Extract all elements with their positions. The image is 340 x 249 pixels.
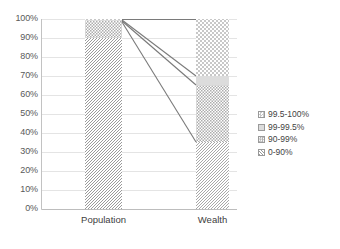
legend-swatch-cross-hatch [258, 136, 265, 143]
bar-segment-population-99.5-100 [85, 19, 122, 20]
bar-segment-population-0-90 [85, 38, 122, 209]
legend-swatch-dense-hatch [258, 149, 265, 156]
y-tick-label: 80% [0, 52, 38, 61]
legend-swatch-sparse-dots [258, 111, 265, 118]
y-tick-label: 100% [0, 14, 38, 23]
legend-swatch-light-solid [258, 124, 265, 131]
y-tick-label: 20% [0, 166, 38, 175]
bar-population [85, 19, 122, 209]
y-tick-label: 40% [0, 128, 38, 137]
bar-segment-wealth-99-99.5 [196, 76, 229, 85]
legend-label: 0-90% [268, 148, 293, 157]
x-tick-label-wealth: Wealth [175, 215, 250, 225]
y-tick-label: 0% [0, 204, 38, 213]
chart-container: 100% 90% 80% 70% 60% 50% 40% 30% 20% 10%… [0, 0, 340, 249]
y-tick-label: 50% [0, 109, 38, 118]
y-tick-label: 90% [0, 33, 38, 42]
y-tick-label: 70% [0, 71, 38, 80]
x-tick-label-population: Population [66, 215, 141, 225]
legend-label: 99-99.5% [268, 123, 304, 132]
y-tick-label: 10% [0, 185, 38, 194]
bar-segment-wealth-90-99 [196, 85, 229, 142]
legend-item-99.5-100[interactable]: 99.5-100% [258, 109, 338, 120]
legend-item-99-99.5[interactable]: 99-99.5% [258, 122, 338, 133]
bar-segment-population-99-99.5 [85, 20, 122, 21]
legend-label: 99.5-100% [268, 110, 309, 119]
bar-segment-wealth-99.5-100 [196, 19, 229, 76]
connector-line-90-99 [122, 21, 196, 85]
bar-wealth [196, 19, 229, 209]
legend-item-90-99[interactable]: 90-99% [258, 134, 338, 145]
connector-line-0-90 [122, 22, 196, 142]
y-tick-label: 30% [0, 147, 38, 156]
bar-segment-population-90-99 [85, 21, 122, 38]
connector-lines [122, 20, 196, 143]
bar-segment-wealth-0-90 [196, 142, 229, 209]
y-tick-label: 60% [0, 90, 38, 99]
legend-item-0-90[interactable]: 0-90% [258, 147, 338, 158]
connector-line-99-99.5 [122, 20, 196, 76]
legend-label: 90-99% [268, 135, 297, 144]
chart-legend: 99.5-100% 99-99.5% 90-99% 0-90% [258, 109, 338, 159]
